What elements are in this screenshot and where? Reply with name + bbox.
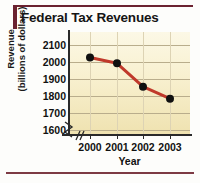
y-axis-title-line1: Revenue [5,0,16,107]
y-tick-label-1800: 1800 [36,91,66,101]
data-series-line [69,32,190,134]
x-tick-2003 [170,134,171,139]
x-tick-2000 [90,134,91,139]
data-point-2002 [139,83,147,91]
data-point-2001 [113,59,121,67]
y-tick-label-1900: 1900 [36,74,66,84]
series-polyline [90,58,170,99]
x-tick-2002 [143,134,144,139]
data-point-2003 [166,95,174,103]
y-tick-label-group: 2100 2000 1900 1800 1700 1600 [34,0,66,183]
y-axis-title-line2: (billions of dollars) [16,0,27,107]
y-axis-title: Revenue (billions of dollars) [5,0,27,107]
chart-figure: Federal Tax Revenues 2100 2000 1900 1800… [0,0,200,183]
y-tick-label-1700: 1700 [36,108,66,118]
data-point-2000 [86,54,94,62]
y-tick-label-2100: 2100 [36,40,66,50]
y-tick-label-1600: 1600 [36,125,66,135]
x-tick-2001 [117,134,118,139]
y-tick-label-2000: 2000 [36,57,66,67]
x-tick-label-2003: 2003 [153,142,187,153]
x-axis-title: Year [69,155,190,167]
bottom-rule [6,172,194,174]
y-axis-line [68,30,70,134]
